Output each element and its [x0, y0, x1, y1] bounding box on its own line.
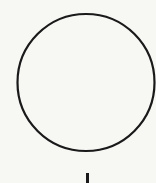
diagram-canvas — [0, 0, 156, 183]
background — [0, 0, 156, 183]
